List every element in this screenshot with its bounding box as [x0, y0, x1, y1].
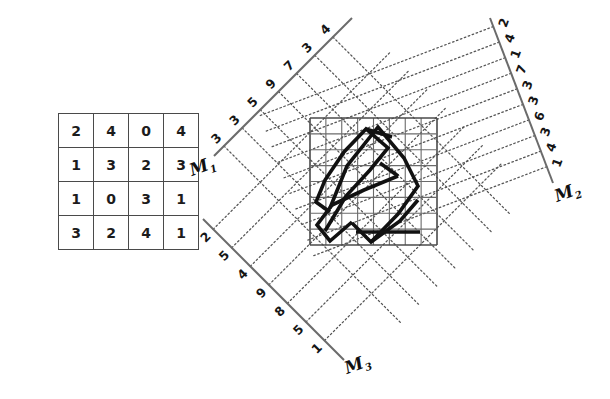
axis-tick-M2: 1 [548, 156, 565, 169]
axis-tick-M3: 5 [290, 321, 307, 338]
axis-tick-M1: 9 [262, 75, 279, 92]
projection-ray-M1 [224, 146, 401, 323]
radon-transform-figure: 2 4 0 4 1 3 2 3 1 0 3 1 3 2 4 1 [0, 0, 610, 399]
axis-tick-M1: 3 [226, 112, 243, 129]
axis-line-M3 [203, 219, 344, 360]
tick-label-layer: 335973424173363412549851 [197, 16, 566, 357]
axis-name-subscript-M1: 1 [208, 162, 218, 175]
axis-tick-M2: 2 [495, 16, 512, 29]
axis-name-subscript-M2: 2 [573, 188, 584, 201]
sinogram-glyph [317, 205, 352, 241]
axis-tick-M2: 3 [537, 125, 554, 138]
axis-tick-M2: 1 [507, 47, 524, 60]
projection-ray-M2 [260, 27, 494, 116]
axis-tick-M3: 1 [308, 340, 325, 357]
projection-diagram: 335973424173363412549851 M1M2M3 [0, 0, 610, 399]
sinogram-glyph [316, 129, 388, 231]
axis-name-layer: M1M2M3 [186, 152, 584, 380]
axis-tick-M3: 5 [216, 247, 233, 264]
axis-line-M1 [214, 18, 352, 156]
axis-tick-M1: 5 [244, 94, 261, 111]
projection-ray-M3 [213, 52, 390, 229]
axis-tick-M2: 3 [525, 94, 542, 107]
axis-tick-M2: 3 [519, 78, 536, 91]
axis-tick-M1: 7 [280, 57, 297, 74]
axis-name-M2: M2 [551, 178, 584, 208]
axis-name-subscript-M3: 3 [363, 360, 373, 373]
axis-tick-M2: 4 [543, 140, 560, 154]
axis-name-M1: M1 [186, 152, 219, 182]
axis-tick-M1: 3 [208, 130, 225, 147]
axis-tick-M3: 8 [271, 303, 288, 320]
axis-tick-M3: 4 [234, 265, 251, 282]
projection-ray-M1 [297, 73, 474, 250]
axis-layer [203, 18, 553, 360]
axis-tick-M2: 4 [501, 31, 518, 45]
axis-name-M3: M3 [341, 350, 374, 380]
axis-tick-M2: 6 [531, 109, 548, 123]
axis-tick-M1: 3 [299, 39, 316, 56]
axis-tick-M2: 7 [513, 63, 530, 76]
axis-tick-M3: 2 [197, 229, 214, 246]
axis-tick-M3: 9 [253, 284, 270, 301]
axis-tick-M1: 4 [317, 21, 334, 38]
